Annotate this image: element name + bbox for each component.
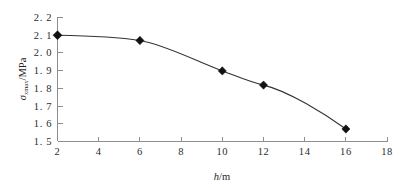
y-tick-label-1.8: 1. 8 — [34, 83, 52, 94]
data-point-h6 — [136, 36, 144, 44]
y-tick-label-2.2: 2. 2 — [34, 12, 52, 23]
x-tick-label-2: 2 — [55, 146, 61, 157]
x-tick-label-14: 14 — [299, 146, 311, 157]
x-tick-label-16: 16 — [340, 146, 352, 157]
y-axis-title: σxmax/MPa — [17, 57, 29, 100]
y-tick-label-1.7: 1. 7 — [34, 101, 52, 112]
y-tick-label-1.6: 1. 6 — [34, 118, 52, 129]
x-tick-label-18: 18 — [381, 146, 393, 157]
x-tick-label-10: 10 — [216, 146, 228, 157]
y-tick-label-2.0: 2. 0 — [34, 47, 52, 58]
data-point-h16 — [342, 125, 350, 133]
x-tick-labels: 2 4 6 8 10 12 14 16 18 — [55, 146, 393, 157]
y-tick-labels: 2. 2 2. 1 2. 0 1. 9 1. 8 1. 7 1. 6 1. 5 — [34, 12, 52, 147]
data-series-line — [58, 35, 346, 129]
x-tick-label-12: 12 — [258, 146, 270, 157]
x-axis-title-unit: /m — [219, 171, 230, 182]
y-axis-title-subscript: xmax — [22, 80, 29, 95]
x-tick-label-6: 6 — [137, 146, 143, 157]
y-tick-label-1.5: 1. 5 — [34, 136, 52, 147]
x-tick-label-4: 4 — [96, 146, 102, 157]
y-axis-title-unit: /MPa — [17, 57, 28, 80]
y-tick-label-1.9: 1. 9 — [34, 65, 52, 76]
data-point-h10 — [218, 67, 226, 75]
svg-text:h/m: h/m — [214, 171, 230, 182]
x-axis-title: h/m — [214, 171, 230, 182]
x-tick-marks — [99, 137, 387, 142]
data-point-h12 — [259, 81, 267, 89]
data-point-h2 — [53, 31, 62, 40]
svg-text:σxmax/MPa: σxmax/MPa — [17, 57, 29, 100]
data-markers — [53, 31, 350, 134]
chart-figure: 2. 2 2. 1 2. 0 1. 9 1. 8 1. 7 1. 6 1. 5 … — [0, 0, 417, 188]
y-tick-label-2.1: 2. 1 — [34, 30, 52, 41]
x-tick-label-8: 8 — [178, 146, 184, 157]
line-chart-canvas: 2. 2 2. 1 2. 0 1. 9 1. 8 1. 7 1. 6 1. 5 … — [0, 0, 417, 188]
